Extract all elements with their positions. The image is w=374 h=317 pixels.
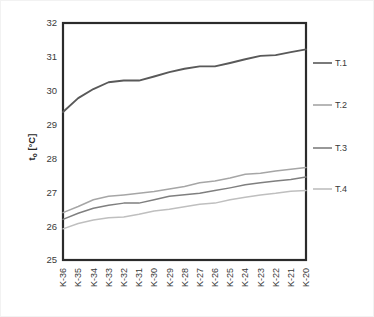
y-tick-label: 26: [46, 221, 57, 232]
legend-item-t-4[interactable]: T.4: [313, 184, 347, 194]
x-tick-label: K-23: [256, 268, 266, 287]
svg-text:K-26: K-26: [210, 268, 220, 287]
x-tick-label: K-24: [240, 268, 250, 287]
legend: T.1T.2T.3T.4: [313, 58, 347, 194]
svg-text:K-36: K-36: [58, 268, 68, 287]
svg-text:K-30: K-30: [149, 268, 159, 287]
x-axis-ticks: K-36K-35K-34K-33K-32K-31K-30K-29K-28K-27…: [58, 268, 311, 287]
svg-text:K-24: K-24: [240, 268, 250, 287]
x-tick-label: K-20: [301, 268, 311, 287]
svg-text:K-22: K-22: [271, 268, 281, 287]
svg-text:K-29: K-29: [165, 268, 175, 287]
chart-figure: 2526272829303132 K-36K-35K-34K-33K-32K-3…: [0, 0, 374, 317]
x-tick-label: K-36: [58, 268, 68, 287]
x-tick-label: K-26: [210, 268, 220, 287]
y-tick-label: 27: [46, 187, 57, 198]
y-tick-label: 30: [46, 85, 57, 96]
svg-text:K-23: K-23: [256, 268, 266, 287]
x-tick-label: K-28: [180, 268, 190, 287]
y-tick-label: 31: [46, 51, 57, 62]
legend-item-t-2[interactable]: T.2: [313, 100, 347, 110]
legend-item-t-3[interactable]: T.3: [313, 143, 347, 153]
plot-area-frame: [63, 23, 306, 260]
legend-label: T.2: [335, 100, 347, 110]
svg-text:K-27: K-27: [195, 268, 205, 287]
svg-text:K-34: K-34: [89, 268, 99, 287]
svg-text:K-31: K-31: [134, 268, 144, 287]
x-tick-label: K-25: [225, 268, 235, 287]
x-tick-label: K-30: [149, 268, 159, 287]
legend-label: T.4: [335, 184, 347, 194]
svg-text:K-25: K-25: [225, 268, 235, 287]
x-tick-label: K-35: [73, 268, 83, 287]
y-tick-label: 28: [46, 153, 57, 164]
legend-item-t-1[interactable]: T.1: [313, 58, 347, 68]
svg-text:K-35: K-35: [73, 268, 83, 287]
svg-text:K-20: K-20: [301, 268, 311, 287]
x-tick-label: K-33: [104, 268, 114, 287]
svg-text:K-33: K-33: [104, 268, 114, 287]
y-tick-label: 29: [46, 119, 57, 130]
legend-label: T.3: [335, 143, 347, 153]
svg-text:K-28: K-28: [180, 268, 190, 287]
svg-text:K-21: K-21: [286, 268, 296, 287]
y-tick-label: 32: [46, 17, 57, 28]
x-tick-label: K-21: [286, 268, 296, 287]
x-tick-label: K-31: [134, 268, 144, 287]
x-tick-label: K-34: [89, 268, 99, 287]
svg-text:K-32: K-32: [119, 268, 129, 287]
x-tick-label: K-32: [119, 268, 129, 287]
x-tick-label: K-27: [195, 268, 205, 287]
x-tick-label: K-22: [271, 268, 281, 287]
y-tick-label: 25: [46, 254, 57, 265]
y-axis-ticks: 2526272829303132: [46, 17, 57, 265]
line-chart: 2526272829303132 K-36K-35K-34K-33K-32K-3…: [1, 1, 374, 317]
y-axis-title: to [°C]: [26, 134, 38, 161]
x-tick-label: K-29: [165, 268, 175, 287]
legend-label: T.1: [335, 58, 347, 68]
y-axis-title-text: to [°C]: [26, 134, 38, 161]
